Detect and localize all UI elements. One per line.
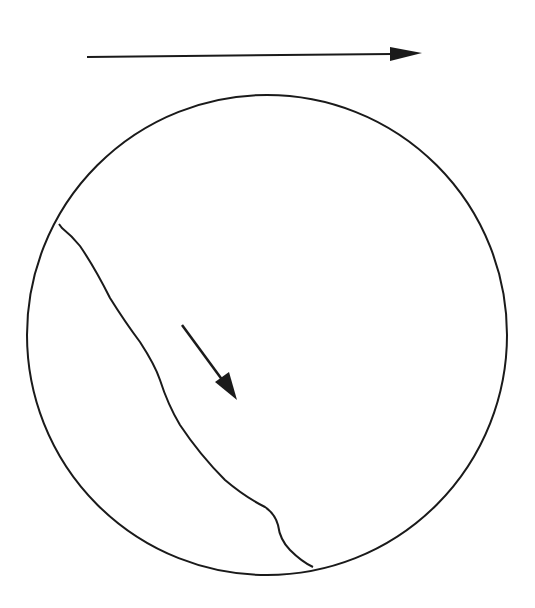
boundary-curve: [59, 224, 313, 567]
circle: [27, 95, 507, 575]
inner-arrow: [182, 325, 237, 400]
top-arrow: [87, 47, 422, 61]
top-arrow-head-icon: [390, 47, 422, 61]
diagram-canvas: [0, 0, 535, 608]
